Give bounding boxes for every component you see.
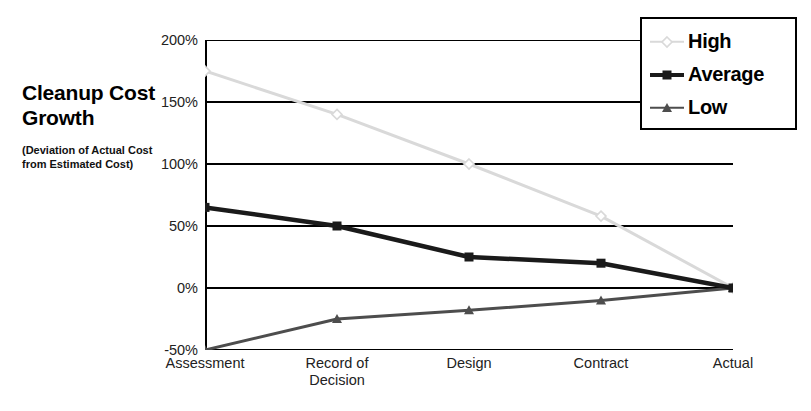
x-axis-tick-labels: AssessmentRecord of DecisionDesignContra… xyxy=(205,355,733,405)
y-tick-label: 150% xyxy=(140,94,198,110)
marker-square xyxy=(465,253,474,262)
legend-label: Average xyxy=(688,63,764,86)
legend-item-low[interactable]: Low xyxy=(650,91,795,124)
marker-diamond xyxy=(662,37,672,47)
y-axis-tick-labels: 200%150%100%50%0%-50% xyxy=(136,40,198,350)
legend-item-average[interactable]: Average xyxy=(650,58,795,91)
legend-marker-square-icon xyxy=(660,68,674,82)
marker-diamond xyxy=(205,66,210,76)
data-point-marker xyxy=(662,103,672,112)
marker-square xyxy=(205,203,210,212)
marker-square xyxy=(663,70,672,79)
data-point-marker xyxy=(729,284,734,293)
data-point-marker xyxy=(597,259,606,268)
y-tick-label: 50% xyxy=(140,218,198,234)
data-point-marker xyxy=(662,37,672,47)
marker-diamond xyxy=(332,109,342,119)
marker-diamond xyxy=(464,159,474,169)
legend-label: High xyxy=(688,30,731,53)
marker-triangle xyxy=(662,103,672,112)
legend-swatch-low-icon xyxy=(650,101,684,115)
legend-marker-diamond-icon xyxy=(660,35,674,49)
x-tick-label: Record of Decision xyxy=(262,355,412,389)
x-tick-label: Contract xyxy=(526,355,676,372)
data-point-marker xyxy=(663,70,672,79)
data-point-marker xyxy=(333,222,342,231)
x-tick-label: Assessment xyxy=(130,355,280,372)
legend-swatch-average-icon xyxy=(650,68,684,82)
data-point-marker xyxy=(205,66,210,76)
legend-marker-triangle-icon xyxy=(660,101,674,115)
marker-square xyxy=(333,222,342,231)
data-point-marker xyxy=(464,159,474,169)
legend-label: Low xyxy=(688,96,727,119)
series-line xyxy=(205,288,733,350)
x-tick-label: Design xyxy=(394,355,544,372)
marker-square xyxy=(729,284,734,293)
y-tick-label: 100% xyxy=(140,156,198,172)
y-tick-label: 0% xyxy=(140,280,198,296)
data-point-marker xyxy=(465,253,474,262)
cleanup-cost-growth-chart: Cleanup Cost Growth (Deviation of Actual… xyxy=(0,0,811,411)
y-tick-label: 200% xyxy=(140,32,198,48)
series-average xyxy=(205,203,733,293)
legend-item-high[interactable]: High xyxy=(650,25,795,58)
x-tick-label: Actual xyxy=(658,355,808,372)
legend-swatch-high-icon xyxy=(650,35,684,49)
series-line xyxy=(205,207,733,288)
data-point-marker xyxy=(332,109,342,119)
series-low xyxy=(205,283,733,350)
chart-legend: HighAverageLow xyxy=(640,17,797,130)
data-point-marker xyxy=(205,203,210,212)
marker-square xyxy=(597,259,606,268)
